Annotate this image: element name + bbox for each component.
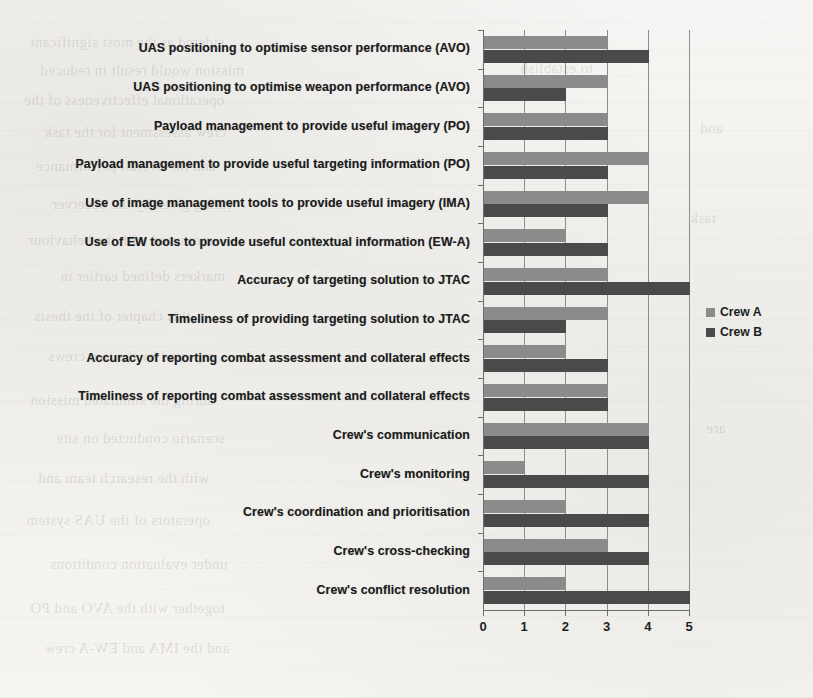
gridline bbox=[689, 30, 690, 610]
category-label: Timeliness of reporting combat assessmen… bbox=[0, 389, 470, 403]
y-tick bbox=[478, 571, 483, 572]
x-tick-label: 5 bbox=[674, 619, 704, 634]
category-label: Payload management to provide useful tar… bbox=[0, 157, 470, 171]
bar-crew-a[interactable] bbox=[484, 307, 608, 320]
bar-crew-a[interactable] bbox=[484, 268, 608, 281]
x-tick bbox=[565, 610, 566, 616]
legend-swatch-icon bbox=[706, 328, 715, 337]
bar-crew-a[interactable] bbox=[484, 461, 525, 474]
x-tick bbox=[524, 610, 525, 616]
x-tick-label: 0 bbox=[468, 619, 498, 634]
category-label: Crew's monitoring bbox=[0, 467, 470, 481]
bar-crew-b[interactable] bbox=[484, 88, 566, 101]
x-tick bbox=[689, 610, 690, 616]
bar-crew-b[interactable] bbox=[484, 127, 608, 140]
category-label: Use of image management tools to provide… bbox=[0, 196, 470, 210]
category-label: Crew's communication bbox=[0, 428, 470, 442]
x-tick bbox=[648, 610, 649, 616]
bar-crew-a[interactable] bbox=[484, 539, 608, 552]
bar-crew-a[interactable] bbox=[484, 423, 649, 436]
bar-crew-a[interactable] bbox=[484, 152, 649, 165]
bar-crew-b[interactable] bbox=[484, 398, 608, 411]
y-tick bbox=[478, 301, 483, 302]
y-tick bbox=[478, 223, 483, 224]
y-tick bbox=[478, 378, 483, 379]
plot-area: 012345 bbox=[483, 30, 689, 610]
category-label: Use of EW tools to provide useful contex… bbox=[0, 235, 470, 249]
category-label: Payload management to provide useful ima… bbox=[0, 119, 470, 133]
legend-label: Crew B bbox=[720, 325, 762, 339]
bar-crew-a[interactable] bbox=[484, 36, 608, 49]
category-label: Crew's coordination and prioritisation bbox=[0, 505, 470, 519]
x-axis-line bbox=[483, 610, 689, 611]
y-tick bbox=[478, 30, 483, 31]
bar-chart: UAS positioning to optimise sensor perfo… bbox=[0, 0, 813, 698]
bar-crew-b[interactable] bbox=[484, 320, 566, 333]
y-tick bbox=[478, 455, 483, 456]
y-tick bbox=[478, 339, 483, 340]
x-tick-label: 1 bbox=[509, 619, 539, 634]
bar-crew-a[interactable] bbox=[484, 229, 566, 242]
legend-swatch-icon bbox=[706, 308, 715, 317]
bar-crew-b[interactable] bbox=[484, 552, 649, 565]
bar-crew-b[interactable] bbox=[484, 514, 649, 527]
category-label: Accuracy of targeting solution to JTAC bbox=[0, 273, 470, 287]
bar-crew-b[interactable] bbox=[484, 166, 608, 179]
category-label: Crew's cross-checking bbox=[0, 544, 470, 558]
bar-crew-a[interactable] bbox=[484, 75, 608, 88]
y-tick bbox=[478, 417, 483, 418]
category-label: Crew's conflict resolution bbox=[0, 583, 470, 597]
y-tick bbox=[478, 494, 483, 495]
bar-crew-b[interactable] bbox=[484, 359, 608, 372]
x-tick-label: 2 bbox=[550, 619, 580, 634]
x-tick bbox=[483, 610, 484, 616]
category-label: UAS positioning to optimise sensor perfo… bbox=[0, 41, 470, 55]
y-tick bbox=[478, 146, 483, 147]
category-label: UAS positioning to optimise weapon perfo… bbox=[0, 80, 470, 94]
bar-crew-b[interactable] bbox=[484, 282, 690, 295]
y-tick bbox=[478, 107, 483, 108]
scanned-page: sidered as the most significant mission … bbox=[0, 0, 813, 698]
y-tick bbox=[478, 262, 483, 263]
bar-crew-b[interactable] bbox=[484, 591, 690, 604]
legend-item[interactable]: Crew A bbox=[706, 302, 802, 322]
x-tick bbox=[607, 610, 608, 616]
y-tick bbox=[478, 185, 483, 186]
bar-crew-b[interactable] bbox=[484, 475, 649, 488]
bar-crew-a[interactable] bbox=[484, 384, 608, 397]
y-tick bbox=[478, 533, 483, 534]
bar-crew-b[interactable] bbox=[484, 436, 649, 449]
bar-crew-a[interactable] bbox=[484, 577, 566, 590]
category-label: Accuracy of reporting combat assessment … bbox=[0, 351, 470, 365]
category-axis-labels: UAS positioning to optimise sensor perfo… bbox=[0, 30, 478, 610]
legend-item[interactable]: Crew B bbox=[706, 322, 802, 342]
y-tick bbox=[478, 69, 483, 70]
x-tick-label: 4 bbox=[633, 619, 663, 634]
bar-crew-b[interactable] bbox=[484, 204, 608, 217]
x-tick-label: 3 bbox=[592, 619, 622, 634]
category-label: Timeliness of providing targeting soluti… bbox=[0, 312, 470, 326]
chart-legend: Crew ACrew B bbox=[706, 302, 802, 342]
bar-crew-a[interactable] bbox=[484, 113, 608, 126]
bar-crew-a[interactable] bbox=[484, 500, 566, 513]
legend-label: Crew A bbox=[720, 305, 762, 319]
bar-crew-b[interactable] bbox=[484, 50, 649, 63]
bar-crew-b[interactable] bbox=[484, 243, 608, 256]
bar-crew-a[interactable] bbox=[484, 191, 649, 204]
bar-crew-a[interactable] bbox=[484, 345, 566, 358]
